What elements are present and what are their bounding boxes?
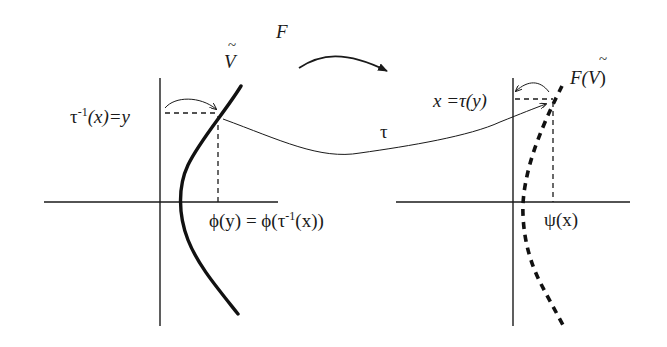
right-curve-tilde: ~	[599, 52, 607, 67]
left-curve-tilde: ~	[228, 38, 236, 53]
left-curve-v	[181, 86, 242, 314]
right-curve-label: F(V)	[570, 68, 606, 87]
map-f-arrow	[299, 56, 387, 71]
left-small-arrow	[165, 99, 216, 109]
left-curve-label: V	[224, 52, 236, 71]
right-x-label: ψ(x)	[544, 210, 578, 229]
tau-label: τ	[380, 122, 388, 141]
left-y-label: τ-1(x)=y	[70, 106, 130, 126]
map-f-label: F	[276, 22, 288, 41]
left-x-label: ϕ(y) = ϕ(τ-1(x))	[209, 210, 324, 230]
right-small-arrow	[516, 83, 549, 92]
diagram-canvas: F τ V ~ τ-1(x)=y ϕ(y) = ϕ(τ-1(x)) F(V) ~…	[0, 0, 667, 347]
right-curve-fv	[523, 86, 563, 325]
diagram-graphics	[0, 0, 667, 347]
right-y-label: x =τ(y)	[433, 91, 487, 110]
